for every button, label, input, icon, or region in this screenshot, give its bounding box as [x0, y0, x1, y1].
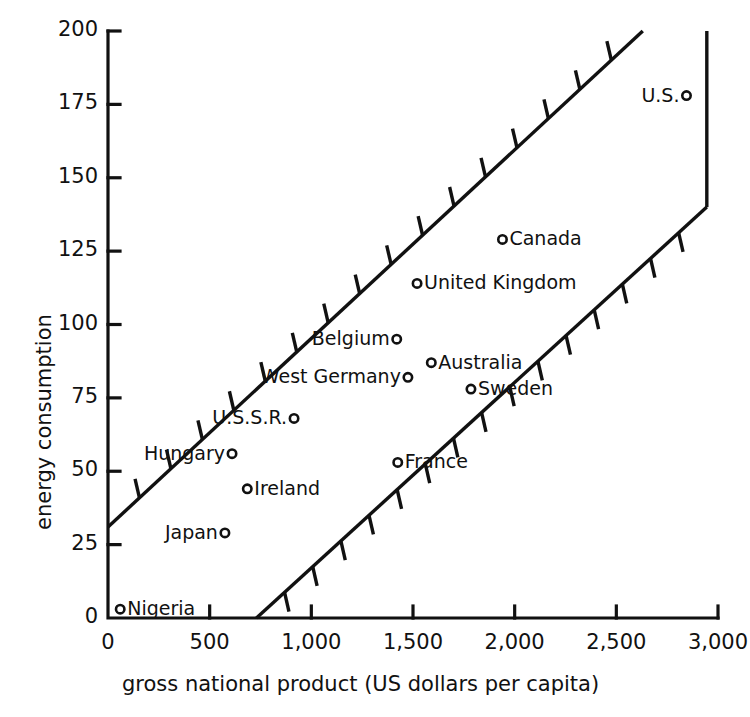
data-point-label: West Germany — [261, 365, 401, 387]
data-point-marker — [498, 235, 506, 243]
data-point-label: France — [405, 450, 468, 472]
data-point-label: Ireland — [254, 477, 320, 499]
data-point-label: Sweden — [478, 377, 553, 399]
data-point-marker — [467, 385, 475, 393]
data-point-marker — [393, 335, 401, 343]
data-point-marker — [116, 605, 124, 613]
data-point-label: Nigeria — [127, 597, 195, 619]
y-tick-label: 200 — [0, 17, 98, 41]
data-point-marker — [228, 449, 236, 457]
y-tick-label: 0 — [0, 604, 98, 628]
data-point-marker — [290, 414, 298, 422]
data-point-marker — [404, 373, 412, 381]
data-point-marker — [221, 529, 229, 537]
data-point-marker — [394, 458, 402, 466]
data-point-label: U.S. — [641, 84, 679, 106]
x-tick-label: 3,000 — [658, 630, 750, 654]
data-point-label: U.S.S.R. — [212, 406, 287, 428]
chart-canvas — [0, 0, 750, 717]
data-point-label: Australia — [438, 351, 522, 373]
x-axis-title: gross national product (US dollars per c… — [122, 672, 599, 696]
data-point-marker — [243, 485, 251, 493]
y-tick-label: 125 — [0, 237, 98, 261]
data-point-label: Japan — [165, 521, 218, 543]
y-axis-title: energy consumption — [32, 314, 56, 530]
y-tick-label: 175 — [0, 90, 98, 114]
y-tick-label: 25 — [0, 531, 98, 555]
y-tick-label: 150 — [0, 164, 98, 188]
chart-root: NigeriaJapanHungaryIrelandU.S.S.R.West G… — [0, 0, 750, 717]
data-point-label: Canada — [509, 227, 581, 249]
data-point-label: Belgium — [312, 327, 390, 349]
data-point-marker — [427, 358, 435, 366]
data-point-label: United Kingdom — [424, 271, 577, 293]
data-point-marker — [682, 91, 690, 99]
data-point-label: Hungary — [144, 442, 225, 464]
data-point-marker — [413, 279, 421, 287]
